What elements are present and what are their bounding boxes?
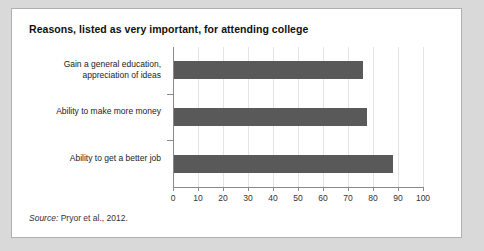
x-axis-tick bbox=[248, 187, 249, 191]
x-axis-tick bbox=[173, 187, 174, 191]
x-axis-tick bbox=[323, 187, 324, 191]
gridline bbox=[423, 47, 424, 187]
x-axis-tick-label: 10 bbox=[193, 193, 202, 203]
x-axis-tick-label: 20 bbox=[218, 193, 227, 203]
x-axis-tick-label: 50 bbox=[293, 193, 302, 203]
source-label: Source: bbox=[29, 213, 58, 223]
x-axis-tick-label: 40 bbox=[268, 193, 277, 203]
x-axis-tick bbox=[423, 187, 424, 191]
x-axis-tick bbox=[298, 187, 299, 191]
x-axis-tick bbox=[348, 187, 349, 191]
source-note: Source: Pryor et al., 2012. bbox=[29, 213, 128, 223]
category-label: Gain a general education, appreciation o… bbox=[64, 59, 161, 81]
gridline bbox=[398, 47, 399, 187]
figure-card: Reasons, listed as very important, for a… bbox=[11, 8, 462, 238]
y-axis-tick bbox=[167, 140, 173, 141]
bar bbox=[174, 155, 393, 173]
x-axis-tick bbox=[223, 187, 224, 191]
x-axis-tick-label: 100 bbox=[416, 193, 430, 203]
x-axis-tick-label: 80 bbox=[368, 193, 377, 203]
x-axis-tick bbox=[373, 187, 374, 191]
bar bbox=[174, 61, 363, 79]
x-axis-tick-label: 90 bbox=[393, 193, 402, 203]
x-axis-tick-label: 70 bbox=[343, 193, 352, 203]
x-axis-tick-label: 60 bbox=[318, 193, 327, 203]
x-axis-tick bbox=[273, 187, 274, 191]
bar bbox=[174, 108, 367, 126]
x-axis-tick bbox=[398, 187, 399, 191]
y-axis-tick bbox=[167, 94, 173, 95]
category-label: Ability to get a better job bbox=[70, 153, 161, 164]
source-text: Pryor et al., 2012. bbox=[61, 213, 128, 223]
x-axis-tick bbox=[198, 187, 199, 191]
x-axis-tick-label: 30 bbox=[243, 193, 252, 203]
x-axis-tick-label: 0 bbox=[171, 193, 176, 203]
category-label: Ability to make more money bbox=[56, 106, 161, 117]
chart-plot: 0102030405060708090100Gain a general edu… bbox=[12, 9, 463, 239]
